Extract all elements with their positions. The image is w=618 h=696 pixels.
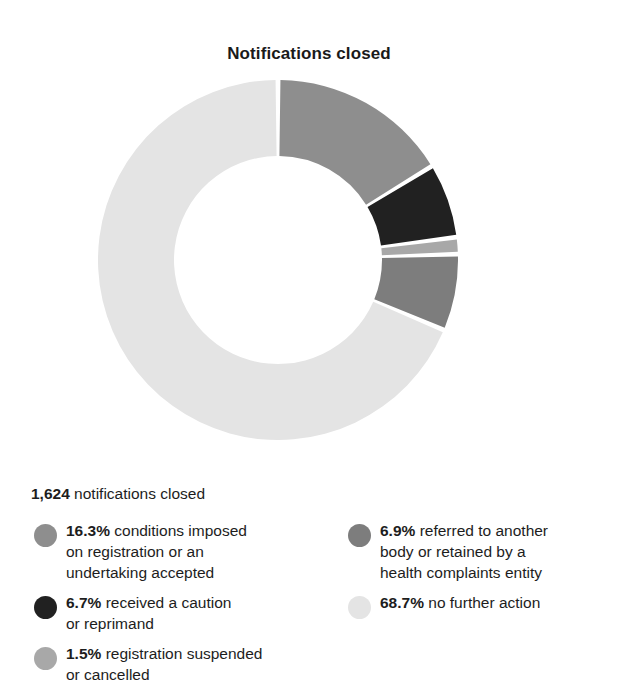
legend-swatch-icon bbox=[34, 596, 57, 619]
donut-chart bbox=[98, 80, 458, 440]
legend-percent: 6.9% bbox=[380, 522, 415, 539]
legend-percent: 1.5% bbox=[66, 645, 101, 662]
legend-percent: 16.3% bbox=[66, 522, 110, 539]
page-title: Notifications closed bbox=[0, 44, 618, 64]
legend-swatch-icon bbox=[348, 596, 371, 619]
legend-percent: 6.7% bbox=[66, 594, 101, 611]
chart-legend: 16.3% conditions imposedon registration … bbox=[26, 520, 596, 690]
legend-label: 6.7% received a cautionor reprimand bbox=[66, 592, 346, 634]
legend-item: 68.7% no further action bbox=[340, 592, 618, 613]
total-summary: 1,624 notifications closed bbox=[31, 485, 205, 503]
total-caption: notifications closed bbox=[74, 485, 205, 502]
donut-slice-group bbox=[98, 80, 458, 440]
legend-item: 16.3% conditions imposedon registration … bbox=[26, 520, 346, 583]
total-count: 1,624 bbox=[31, 485, 70, 502]
legend-column-right: 6.9% referred to anotherbody or retained… bbox=[340, 520, 618, 622]
legend-label: 1.5% registration suspendedor cancelled bbox=[66, 643, 346, 685]
legend-item: 1.5% registration suspendedor cancelled bbox=[26, 643, 346, 685]
legend-swatch-icon bbox=[348, 524, 371, 547]
donut-chart-svg bbox=[98, 80, 458, 440]
legend-label: 68.7% no further action bbox=[380, 592, 618, 613]
legend-label: 6.9% referred to anotherbody or retained… bbox=[380, 520, 618, 583]
legend-swatch-icon bbox=[34, 524, 57, 547]
legend-column-left: 16.3% conditions imposedon registration … bbox=[26, 520, 346, 694]
legend-swatch-icon bbox=[34, 647, 57, 670]
legend-item: 6.9% referred to anotherbody or retained… bbox=[340, 520, 618, 583]
legend-percent: 68.7% bbox=[380, 594, 424, 611]
legend-item: 6.7% received a cautionor reprimand bbox=[26, 592, 346, 634]
legend-label: 16.3% conditions imposedon registration … bbox=[66, 520, 346, 583]
